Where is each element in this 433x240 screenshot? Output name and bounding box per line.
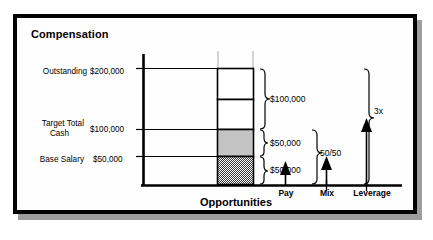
bracket-upside <box>260 69 270 129</box>
arrow-mix <box>321 156 332 185</box>
bracket-base-salary <box>260 157 268 184</box>
chart-plot-area <box>17 18 413 210</box>
gridlines <box>143 69 217 157</box>
bar-segment-target-incentive <box>218 130 254 157</box>
bracket-target-incentive <box>260 130 268 156</box>
annotation-upside-amount: $100,000 <box>270 94 305 104</box>
bar-guide-lines <box>218 51 253 68</box>
annotation-base-amount: $50,000 <box>270 165 301 175</box>
stacked-bar <box>218 69 254 185</box>
slide-frame: Compensation Outstanding $200,000 Target… <box>13 14 417 214</box>
axis-label-mix: Mix <box>320 188 334 198</box>
bar-segment-base-salary <box>218 157 254 185</box>
arrow-leverage <box>361 118 372 185</box>
chart-svg <box>17 18 413 210</box>
annotation-leverage-multiple: 3x <box>374 106 383 116</box>
axis-label-pay: Pay <box>278 188 293 198</box>
axis-title-opportunities: Opportunities <box>200 196 272 208</box>
bar-segment-upside-upper <box>218 69 254 100</box>
annotation-target-incentive-amount: $50,000 <box>270 138 301 148</box>
bar-segment-upside-lower <box>218 100 254 130</box>
slide-canvas: Compensation Outstanding $200,000 Target… <box>17 18 413 210</box>
axis-label-leverage: Leverage <box>353 188 390 198</box>
annotation-mix-ratio: 50/50 <box>320 148 341 158</box>
